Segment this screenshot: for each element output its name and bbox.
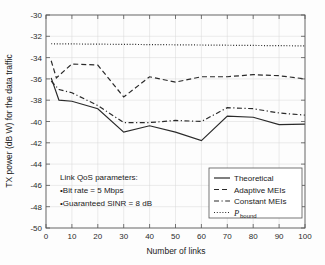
x-tick-label: 20	[93, 232, 102, 241]
x-tick-label: 10	[67, 232, 76, 241]
annotation-line-3: •Guaranteed SINR = 8 dB	[60, 199, 152, 208]
y-tick-label: -34	[30, 54, 42, 63]
annotation-line-1: Link QoS parameters:	[60, 173, 138, 182]
x-tick-label: 60	[197, 232, 206, 241]
y-tick-label: -30	[30, 11, 42, 20]
legend-label-sub-3: bound	[240, 213, 257, 219]
chart-legend[interactable]: TheoreticalAdaptive MEIsConstant MEIsPbo…	[209, 168, 302, 219]
y-axis-title: TX power (dB W) for the data traffic	[4, 53, 14, 187]
x-tick-label: 70	[223, 232, 232, 241]
qos-annotation: Link QoS parameters: •Bit rate = 5 Mbps …	[60, 173, 152, 208]
y-tick-label: -50	[30, 224, 42, 233]
series-line-constant-meis	[51, 81, 305, 123]
y-tick-label: -48	[30, 203, 42, 212]
x-tick-label: 50	[171, 232, 180, 241]
annotation-line-2: •Bit rate = 5 Mbps	[60, 186, 124, 195]
y-tick-label: -36	[30, 75, 42, 84]
y-tick-label: -38	[30, 96, 42, 105]
legend-label-0: Theoretical	[234, 174, 274, 183]
x-tick-label: 30	[119, 232, 128, 241]
x-tick-label: 90	[275, 232, 284, 241]
x-tick-label: 0	[44, 232, 49, 241]
legend-label-2: Constant MEIs	[234, 197, 286, 206]
x-axis-title: Number of links	[146, 246, 205, 256]
legend-label-1: Adaptive MEIs	[234, 186, 286, 195]
data-series-group	[51, 44, 305, 141]
y-tick-label: -46	[30, 181, 42, 190]
legend-label-3: P	[233, 208, 239, 218]
y-tick-label: -42	[30, 139, 42, 148]
y-tick-label: -40	[30, 118, 42, 127]
x-tick-label: 40	[145, 232, 154, 241]
x-tick-label: 80	[249, 232, 258, 241]
series-line-p-bound	[51, 44, 305, 46]
y-tick-label: -32	[30, 32, 42, 41]
chart-svg: 0102030405060708090100 -30-32-34-36-38-4…	[0, 0, 325, 265]
chart-figure: 0102030405060708090100 -30-32-34-36-38-4…	[0, 0, 325, 265]
series-line-theoretical	[51, 78, 305, 141]
x-tick-label: 100	[298, 232, 312, 241]
y-tick-label: -44	[30, 160, 42, 169]
